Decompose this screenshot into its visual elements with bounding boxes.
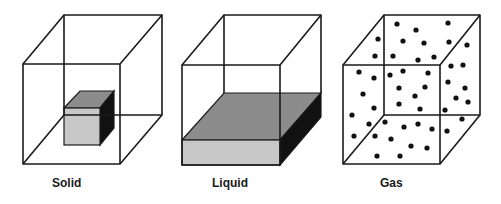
gas-particle bbox=[415, 57, 420, 62]
gas-particle bbox=[388, 136, 393, 141]
liquid-container-box bbox=[182, 15, 321, 165]
solid-container-box bbox=[23, 15, 162, 164]
gas-particle bbox=[429, 126, 434, 131]
solid-cube-front bbox=[64, 108, 100, 145]
gas-particle bbox=[396, 85, 401, 90]
gas-particle bbox=[445, 79, 450, 84]
gas-particle bbox=[459, 116, 464, 121]
label-liquid: Liquid bbox=[212, 176, 248, 190]
gas-particle bbox=[421, 40, 426, 45]
gas-particle bbox=[396, 101, 401, 106]
gas-particle bbox=[425, 70, 430, 75]
gas-particle bbox=[422, 84, 427, 89]
gas-particle bbox=[442, 107, 447, 112]
gas-particle bbox=[349, 112, 354, 117]
gas-particle bbox=[375, 36, 380, 41]
gas-particle bbox=[464, 42, 469, 47]
label-gas: Gas bbox=[380, 176, 403, 190]
gas-particle bbox=[356, 69, 361, 74]
gas-particle bbox=[412, 93, 417, 98]
gas-particle bbox=[382, 119, 387, 124]
gas-particle bbox=[431, 54, 436, 59]
gas-particle bbox=[390, 53, 395, 58]
gas-particle bbox=[465, 99, 470, 104]
gas-particle bbox=[394, 21, 399, 26]
gas-particle bbox=[372, 53, 377, 58]
gas-particle bbox=[448, 63, 453, 68]
states-of-matter-diagram bbox=[0, 0, 501, 204]
gas-particle bbox=[413, 27, 418, 32]
gas-particle bbox=[401, 124, 406, 129]
gas-particle bbox=[424, 145, 429, 150]
solid-cube bbox=[64, 91, 114, 145]
gas-particle bbox=[417, 106, 422, 111]
liquid-slab bbox=[182, 93, 321, 165]
gas-particle bbox=[462, 85, 467, 90]
gas-particle bbox=[387, 72, 392, 77]
label-solid: Solid bbox=[52, 176, 81, 190]
gas-particle bbox=[444, 128, 449, 133]
gas-particle bbox=[400, 68, 405, 73]
gas-container-box bbox=[343, 15, 480, 164]
gas-particle bbox=[397, 153, 402, 158]
gas-particle bbox=[374, 153, 379, 158]
gas-particle bbox=[453, 95, 458, 100]
gas-particle bbox=[351, 133, 356, 138]
gas-particle bbox=[408, 143, 413, 148]
gas-particle bbox=[372, 133, 377, 138]
gas-particles bbox=[349, 20, 470, 158]
gas-particle bbox=[446, 39, 451, 44]
gas-particle bbox=[371, 75, 376, 80]
gas-particle bbox=[400, 38, 405, 43]
gas-particle bbox=[445, 20, 450, 25]
gas-particle bbox=[371, 105, 376, 110]
gas-particle bbox=[460, 62, 465, 67]
gas-particle bbox=[360, 91, 365, 96]
liquid-front bbox=[182, 140, 280, 165]
gas-particle bbox=[415, 121, 420, 126]
gas-particle bbox=[366, 121, 371, 126]
